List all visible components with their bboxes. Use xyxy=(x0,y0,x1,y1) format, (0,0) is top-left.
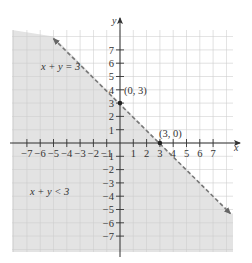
x-tick-label: 5 xyxy=(184,148,189,159)
x-tick-label: −7 xyxy=(21,148,32,159)
y-tick-label: −7 xyxy=(103,231,114,242)
y-tick-label: 5 xyxy=(109,71,114,82)
x-tick-label: −6 xyxy=(35,148,46,159)
x-tick-label: −3 xyxy=(75,148,86,159)
x-tick-label: −5 xyxy=(48,148,59,159)
y-tick-label: 6 xyxy=(109,58,114,69)
y-tick-label: −5 xyxy=(103,204,114,215)
point-marker xyxy=(118,101,123,106)
x-axis-label: x xyxy=(233,142,239,153)
y-tick-label: −6 xyxy=(103,218,114,229)
y-tick-label: −1 xyxy=(103,151,114,162)
y-tick-label: 3 xyxy=(109,98,114,109)
point-marker xyxy=(158,141,163,146)
y-tick-label: −2 xyxy=(103,164,114,175)
x-tick-label: 1 xyxy=(131,148,136,159)
y-tick-label: 1 xyxy=(109,125,114,136)
x-tick-label: 2 xyxy=(144,148,149,159)
y-tick-label: −4 xyxy=(103,191,115,202)
y-axis-label: y xyxy=(111,15,117,26)
x-tick-label: −2 xyxy=(88,148,99,159)
point-label-0-3: (0, 3) xyxy=(124,85,147,97)
x-tick-label: −4 xyxy=(61,148,73,159)
y-tick-label: −3 xyxy=(103,178,114,189)
line-equation-label: x + y = 3 xyxy=(40,61,80,72)
region-inequality-label: x + y < 3 xyxy=(29,186,69,197)
x-tick-label: 4 xyxy=(171,148,177,159)
x-tick-label: 3 xyxy=(157,148,162,159)
inequality-graph: −7−6−5−4−3−2−11234567−7−6−5−4−3−2−112345… xyxy=(0,0,252,263)
x-tick-label: 6 xyxy=(197,148,202,159)
y-tick-label: 2 xyxy=(109,111,114,122)
y-tick-label: 7 xyxy=(109,45,114,56)
x-tick-label: 7 xyxy=(210,148,215,159)
point-label-3-0: (3, 0) xyxy=(159,128,182,140)
